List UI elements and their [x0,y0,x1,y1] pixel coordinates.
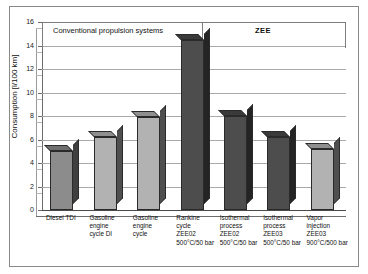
bar-side-face [290,125,296,204]
x-axis-line [42,210,346,211]
bar-front-face [50,151,73,210]
bar-front-face [181,40,204,210]
x-tick-label: VaporinjectionZEE03900°C/500 bar [307,214,358,247]
gridline-back [36,122,42,123]
y-tick-label: 12 [8,65,34,72]
bar-side-face [160,105,166,204]
bar-front-face [94,137,117,210]
gridline-back [36,193,42,194]
bar-side-face [247,104,253,204]
x-tick-label-line: injection [307,222,358,230]
bar-front-face [267,137,290,210]
bar-column [94,137,117,210]
y-tick-label: 4 [8,159,34,166]
group-label-conventional: Conventional propulsion systems [53,26,168,35]
bar-column [311,149,334,210]
y-tick-label: 0 [8,206,34,213]
bar-side-face [73,139,79,204]
y-tick-label: 16 [8,18,34,25]
x-tick-label-line: Vapor [307,214,358,222]
y-tick-label: 10 [8,89,34,96]
gridline-back [36,169,42,170]
bar-column [181,40,204,210]
y-tick-label: 2 [8,183,34,190]
gridline-back [36,146,42,147]
y-tick-label: 14 [8,42,34,49]
bar-column [267,137,290,210]
y-tick-label: 8 [8,112,34,119]
bar-column [224,116,247,210]
x-tick-label-line: 900°C/500 bar [307,239,358,247]
bar-front-face [224,116,247,210]
bar-column [50,151,73,210]
bar-front-face [137,117,160,210]
bar-front-face [311,149,334,210]
gridline-back [36,99,42,100]
y-tick-label: 6 [8,136,34,143]
bar-side-face [334,137,340,204]
bar-side-face [204,28,210,204]
chart-figure: Consumption [l/100 km] 1614121086420 Con… [0,0,368,274]
y-tick-mark [38,210,42,211]
x-tick-label-line: ZEE03 [307,230,358,238]
x-axis-labels: Diesel TDIGasolineenginecycle DIGasoline… [42,214,346,266]
gridline-back [36,52,42,53]
bar-column [137,117,160,210]
gridline-back [36,75,42,76]
